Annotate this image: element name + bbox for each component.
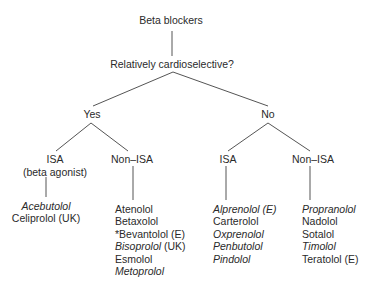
drug-pindolol: Pindolol bbox=[213, 253, 277, 265]
drug-penbutolol: Penbutolol bbox=[213, 240, 277, 252]
yes-isa-node: ISA (beta agonist) bbox=[23, 153, 87, 179]
yes-isa-drug-list: Acebutolol Celiprolol (UK) bbox=[12, 200, 80, 225]
drug-esmolol: Esmolol bbox=[115, 253, 186, 265]
drug-bisoprolol: Bisoprolol (UK) bbox=[115, 240, 186, 252]
edge-no-isa bbox=[228, 123, 268, 151]
yes-isa-label: ISA bbox=[23, 153, 87, 166]
drug-atenolol: Atenolol bbox=[115, 203, 186, 215]
edge-no-nonisa bbox=[268, 123, 310, 151]
question-node: Relatively cardioselective? bbox=[110, 58, 234, 71]
drug-oxprenolol: Oxprenolol bbox=[213, 228, 277, 240]
edge-question-no bbox=[173, 72, 268, 106]
drug-sotalol: Sotalol bbox=[302, 228, 359, 240]
yes-nonisa-node: Non–ISA bbox=[111, 153, 153, 166]
no-node: No bbox=[261, 108, 274, 121]
yes-node: Yes bbox=[83, 108, 100, 121]
drug-bevantolol: *Bevantolol (E) bbox=[115, 228, 186, 240]
drug-metoprolol: Metoprolol bbox=[115, 265, 186, 277]
drug-teratolol: Teratolol (E) bbox=[302, 253, 359, 265]
drug-alprenolol: Alprenolol (E) bbox=[213, 203, 277, 215]
drug-nadolol: Nadolol bbox=[302, 215, 359, 227]
drug-bisoprolol-suffix: (UK) bbox=[161, 240, 186, 252]
edge-yes-nonisa bbox=[91, 123, 128, 151]
no-nonisa-drug-list: Propranolol Nadolol Sotalol Timolol Tera… bbox=[302, 203, 359, 265]
edge-question-yes bbox=[93, 72, 173, 106]
drug-timolol: Timolol bbox=[302, 240, 359, 252]
drug-bisoprolol-name: Bisoprolol bbox=[115, 240, 161, 252]
root-node: Beta blockers bbox=[139, 14, 203, 27]
no-isa-node: ISA bbox=[220, 153, 237, 166]
drug-acebutolol: Acebutolol bbox=[12, 200, 80, 212]
drug-propranolol: Propranolol bbox=[302, 203, 359, 215]
drug-carterolol: Carterolol bbox=[213, 215, 277, 227]
no-nonisa-node: Non–ISA bbox=[292, 153, 334, 166]
edge-yes-isa bbox=[56, 123, 91, 151]
no-isa-drug-list: Alprenolol (E) Carterolol Oxprenolol Pen… bbox=[213, 203, 277, 265]
yes-nonisa-drug-list: Atenolol Betaxolol *Bevantolol (E) Bisop… bbox=[115, 203, 186, 277]
yes-isa-sublabel: (beta agonist) bbox=[23, 166, 87, 179]
drug-celiprolol: Celiprolol (UK) bbox=[12, 212, 80, 224]
drug-betaxolol: Betaxolol bbox=[115, 215, 186, 227]
